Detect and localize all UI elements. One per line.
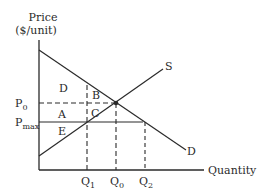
region-d-label: D	[59, 82, 68, 95]
x-axis-label: Quantity	[208, 164, 257, 177]
region-a-label: A	[57, 108, 67, 121]
price-ceiling-diagram: Price ($/unit) Quantity P0 Pmax Q1 Q0 Q2…	[0, 0, 264, 193]
region-b-label: B	[92, 89, 100, 102]
equilibrium-point	[114, 101, 119, 106]
p0-label: P0	[15, 97, 28, 112]
region-c-label: C	[91, 107, 99, 120]
y-axis-label-line1: Price	[29, 11, 58, 24]
demand-label: D	[187, 145, 196, 158]
region-e-label: E	[58, 125, 66, 138]
pmax-label: Pmax	[15, 116, 40, 131]
q2-label: Q2	[139, 175, 153, 190]
q0-label: Q0	[110, 175, 124, 190]
y-axis-label-line2: ($/unit)	[15, 24, 56, 37]
supply-label: S	[165, 60, 173, 73]
q1-label: Q1	[81, 175, 95, 190]
